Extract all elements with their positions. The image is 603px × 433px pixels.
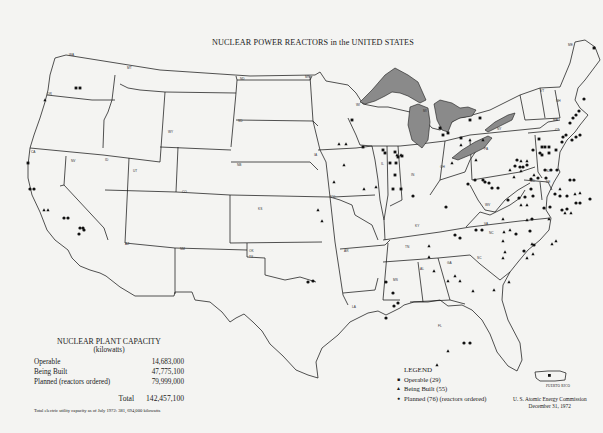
operable-reactor-marker — [400, 188, 403, 191]
planned-reactor-marker — [480, 228, 483, 231]
state-label: NY — [497, 127, 502, 131]
operable-reactor-marker — [75, 87, 78, 90]
capacity-value: 47,775,100 — [152, 367, 184, 377]
planned-reactor-marker — [564, 133, 567, 136]
planned-reactor-marker — [574, 135, 577, 138]
capacity-units: (kilowatts) — [34, 346, 184, 354]
capacity-label: Being Built — [34, 367, 67, 377]
legend-item-being-built: ▲ Being Built (55) — [393, 384, 487, 393]
being-built-reactor-marker — [569, 211, 572, 214]
capacity-heading: NUCLEAR PLANT CAPACITY — [34, 337, 184, 346]
planned-reactor-marker — [529, 187, 532, 190]
planned-reactor-marker — [532, 243, 535, 246]
being-built-reactor-marker — [316, 208, 319, 211]
planned-reactor-marker — [306, 280, 309, 283]
planned-reactor-marker — [560, 208, 563, 211]
planned-reactor-marker — [574, 201, 577, 204]
planned-reactor-marker — [531, 148, 534, 151]
state-label: SD — [238, 119, 243, 123]
planned-reactor-marker — [384, 316, 387, 319]
state-label: DE — [546, 180, 550, 184]
being-built-reactor-marker — [337, 142, 340, 145]
map-title: NUCLEAR POWER REACTORS in the UNITED STA… — [212, 38, 414, 47]
planned-reactor-marker — [549, 168, 552, 171]
total-label: Total — [119, 394, 135, 403]
being-built-reactor-marker — [459, 143, 462, 146]
operable-reactor-marker — [351, 119, 354, 122]
planned-reactor-marker — [568, 178, 571, 181]
legend: LEGEND ■ Operable (29) ▲ Being Built (55… — [393, 366, 487, 403]
being-built-reactor-marker — [550, 242, 553, 245]
capacity-note: Total electric utility capacity as of Ju… — [34, 408, 204, 413]
planned-reactor-marker — [32, 187, 35, 190]
planned-reactor-marker — [568, 121, 571, 124]
state-label: ID — [105, 158, 109, 162]
credit-line2: December 31, 1972 — [513, 403, 587, 410]
planned-reactor-marker — [538, 151, 541, 154]
being-built-reactor-marker — [573, 192, 576, 195]
state-label: NC — [489, 231, 494, 235]
state-label: WV — [485, 203, 491, 207]
being-built-reactor-marker — [471, 289, 474, 292]
operable-reactor-marker — [389, 162, 392, 165]
state-labels: WAORCANVIDMTWYUTCOAZNMNDSDNBKSOKTXMNIAMO… — [31, 43, 573, 328]
capacity-row: Operable 14,683,000 — [34, 357, 184, 367]
planned-reactor-marker — [392, 304, 395, 307]
being-built-reactor-marker — [332, 180, 335, 183]
capacity-row: Planned (reactors ordered) 79,999,000 — [34, 377, 184, 387]
state-label: AL — [420, 267, 424, 271]
state-label: TN — [405, 245, 410, 249]
planned-reactor-marker — [558, 194, 561, 197]
state-label: KY — [415, 224, 420, 228]
state-label: WY — [168, 130, 174, 134]
capacity-table: NUCLEAR PLANT CAPACITY (kilowatts) Opera… — [34, 337, 204, 413]
planned-reactor-marker — [515, 158, 518, 161]
being-built-reactor-marker — [432, 269, 435, 272]
state-label: ME — [568, 43, 573, 47]
being-built-reactor-marker — [446, 279, 449, 282]
planned-reactor-marker — [530, 217, 533, 220]
planned-reactor-marker — [506, 198, 509, 201]
being-built-reactor-marker — [474, 158, 477, 161]
being-built-reactor-marker — [446, 349, 449, 352]
planned-reactor-marker — [565, 207, 568, 210]
being-built-reactor-marker — [344, 142, 347, 145]
planned-reactor-marker — [77, 232, 80, 235]
planned-reactor-marker — [588, 197, 591, 200]
being-built-reactor-marker — [578, 191, 581, 194]
triangle-icon: ▲ — [393, 384, 404, 393]
planned-reactor-marker — [66, 216, 69, 219]
planned-reactor-marker — [444, 205, 447, 208]
being-built-reactor-marker — [395, 153, 398, 156]
being-built-reactor-marker — [525, 256, 528, 259]
planned-reactor-marker — [577, 109, 580, 112]
planned-reactor-marker — [473, 178, 476, 181]
planned-reactor-marker — [582, 97, 585, 100]
being-built-reactor-marker — [519, 169, 522, 172]
state-label: MN — [305, 75, 311, 79]
state-label: IA — [314, 153, 318, 157]
planned-reactor-marker — [487, 181, 490, 184]
state-label: VT — [540, 89, 544, 93]
planned-reactor-marker — [384, 280, 387, 283]
state-label: GA — [447, 261, 452, 265]
legend-label: Being Built (55) — [404, 384, 447, 393]
planned-reactor-marker — [542, 206, 545, 209]
planned-reactor-marker — [529, 177, 532, 180]
state-label: SC — [477, 256, 482, 260]
being-built-reactor-marker — [501, 239, 504, 242]
legend-item-operable: ■ Operable (29) — [393, 375, 487, 384]
state-label: MI — [423, 109, 427, 113]
operable-reactor-marker — [555, 149, 558, 152]
operable-reactor-marker — [439, 127, 442, 130]
being-built-reactor-marker — [508, 168, 511, 171]
state-label: MT — [127, 66, 132, 70]
operable-reactor-marker — [442, 134, 445, 137]
capacity-value: 79,999,000 — [152, 377, 184, 387]
operable-reactor-marker — [394, 174, 397, 177]
being-built-reactor-marker — [503, 250, 506, 253]
planned-reactor-marker — [453, 233, 456, 236]
state-label: KS — [258, 207, 262, 211]
planned-reactor-marker — [483, 180, 486, 183]
planned-reactor-marker — [518, 165, 521, 168]
